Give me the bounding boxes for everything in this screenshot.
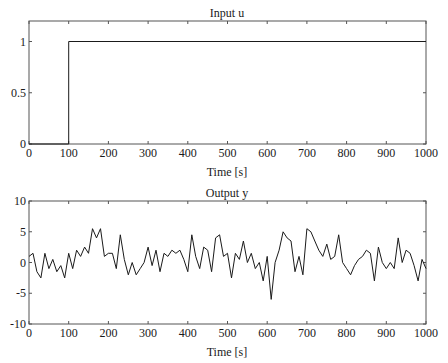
x-tick-label: 100 xyxy=(60,326,78,340)
y-tick-label: 0 xyxy=(20,137,26,151)
x-tick-label: 300 xyxy=(139,146,157,160)
x-tick-label: 200 xyxy=(99,146,117,160)
y-tick-label: -5 xyxy=(16,286,26,300)
y-tick-label: 5 xyxy=(20,225,26,239)
x-tick-label: 900 xyxy=(377,326,395,340)
y-tick-label: 10 xyxy=(14,194,26,208)
bottom-x-ticks: 01002003004005006007008009001000 xyxy=(26,201,438,340)
y-tick-label: 1 xyxy=(20,35,26,49)
output-y-line xyxy=(29,229,426,300)
top-y-ticks: 00.51 xyxy=(11,35,426,152)
bottom-y-ticks: -10-50510 xyxy=(10,194,426,331)
x-tick-label: 600 xyxy=(258,326,276,340)
top-plot-title: Input u xyxy=(210,6,244,20)
x-tick-label: 0 xyxy=(26,326,32,340)
input-u-plot: Input u 01002003004005006007008009001000… xyxy=(11,6,438,179)
figure: Input u 01002003004005006007008009001000… xyxy=(0,0,448,363)
output-y-plot: Output y 0100200300400500600700800900100… xyxy=(10,186,438,359)
x-tick-label: 1000 xyxy=(414,326,438,340)
y-tick-label: 0 xyxy=(20,256,26,270)
y-tick-label: -10 xyxy=(10,317,26,331)
x-tick-label: 300 xyxy=(139,326,157,340)
x-tick-label: 500 xyxy=(219,146,237,160)
x-tick-label: 500 xyxy=(219,326,237,340)
top-x-axis-label: Time [s] xyxy=(207,165,248,179)
x-tick-label: 800 xyxy=(338,326,356,340)
input-u-line xyxy=(29,42,426,145)
x-tick-label: 200 xyxy=(99,326,117,340)
x-tick-label: 1000 xyxy=(414,146,438,160)
top-axes-box xyxy=(29,21,426,144)
x-tick-label: 0 xyxy=(26,146,32,160)
x-tick-label: 900 xyxy=(377,146,395,160)
bottom-plot-title: Output y xyxy=(206,186,248,200)
x-tick-label: 700 xyxy=(298,146,316,160)
x-tick-label: 400 xyxy=(179,146,197,160)
x-tick-label: 800 xyxy=(338,146,356,160)
x-tick-label: 600 xyxy=(258,146,276,160)
bottom-axes-box xyxy=(29,201,426,324)
x-tick-label: 700 xyxy=(298,326,316,340)
y-tick-label: 0.5 xyxy=(11,86,26,100)
x-tick-label: 400 xyxy=(179,326,197,340)
x-tick-label: 100 xyxy=(60,146,78,160)
bottom-x-axis-label: Time [s] xyxy=(207,345,248,359)
